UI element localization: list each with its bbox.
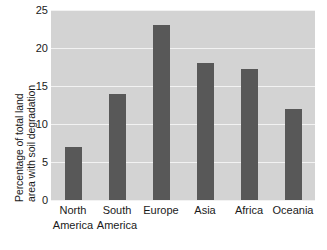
x-tick-label-line-1: Europe [143,204,178,216]
y-axis-tick-labels: 0510152025 [26,0,48,250]
y-tick-label: 0 [26,195,48,206]
y-tick-label: 20 [26,43,48,54]
x-axis-tick-labels: NorthAmericaSouthAmericaEuropeAsiaAfrica… [51,203,315,247]
gridline [51,200,315,201]
x-tick-label-line-1: Asia [194,204,215,216]
y-axis-title-line-1: Percentage of total land [13,93,25,202]
x-tick-label-line-1: Oceania [273,204,314,216]
bar[interactable] [109,94,126,200]
y-tick-label: 15 [26,81,48,92]
bar[interactable] [197,63,214,200]
x-tick-label: SouthAmerica [95,203,139,233]
y-tick-label: 5 [26,157,48,168]
x-tick-label: NorthAmerica [51,203,95,233]
x-tick-label: Oceania [271,203,315,218]
bar[interactable] [285,109,302,200]
x-tick-label-line-2: America [51,218,95,233]
x-tick-label: Africa [227,203,271,218]
x-tick-label: Europe [139,203,183,218]
x-tick-label: Asia [183,203,227,218]
bar[interactable] [153,25,170,200]
bar[interactable] [65,147,82,200]
y-tick-label: 10 [26,119,48,130]
plot-area [51,10,315,200]
bars [51,10,315,200]
x-tick-label-line-1: Africa [235,204,263,216]
bar-chart: Percentage of total land area with soil … [0,0,327,250]
y-tick-label: 25 [26,5,48,16]
x-tick-label-line-2: America [95,218,139,233]
x-tick-label-line-1: South [103,204,132,216]
x-tick-label-line-1: North [60,204,87,216]
bar[interactable] [241,69,258,200]
